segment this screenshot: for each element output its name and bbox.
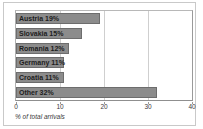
x-tick-label-30: 30 (144, 103, 151, 110)
x-tick-label-20: 20 (100, 103, 107, 110)
x-tick-label-40: 40 (188, 103, 195, 110)
bar-label-slovakia: Slovakia 15% (19, 28, 63, 39)
chart-frame: Austria 19%Slovakia 15%Romania 12%German… (3, 2, 196, 126)
bar-label-germany: Germany 11% (19, 57, 65, 68)
bar-row: Other 32% (16, 87, 192, 98)
bar-row: Romania 12% (16, 43, 192, 54)
bar-row: Slovakia 15% (16, 28, 192, 39)
bar-row: Austria 19% (16, 13, 192, 24)
x-tick-label-0: 0 (14, 103, 18, 110)
bar-series: Austria 19%Slovakia 15%Romania 12%German… (16, 11, 192, 100)
x-axis: 010203040 (15, 102, 193, 111)
plot-area: Austria 19%Slovakia 15%Romania 12%German… (15, 10, 193, 101)
bar-label-austria: Austria 19% (19, 13, 59, 24)
bar-label-croatia: Croatia 11% (19, 72, 59, 83)
bar-label-other: Other 32% (19, 87, 54, 98)
bar-label-romania: Romania 12% (19, 43, 65, 54)
bar-row: Croatia 11% (16, 72, 192, 83)
x-axis-caption: % of total arrivals (15, 113, 65, 120)
bar-row: Germany 11% (16, 57, 192, 68)
x-tick-label-10: 10 (56, 103, 63, 110)
